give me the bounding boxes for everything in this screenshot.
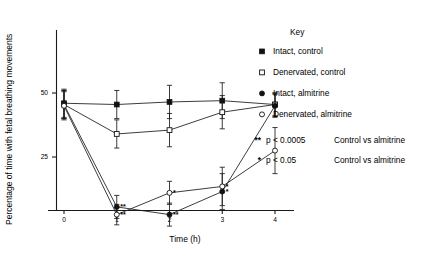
significance-marker: **: [173, 211, 179, 218]
marker-open-square: [260, 70, 265, 75]
x-tick-label: 4: [273, 216, 277, 223]
marker-filled-circle: [167, 212, 172, 217]
marker-open-circle: [220, 184, 225, 189]
legend-item[interactable]: Denervated, control: [260, 67, 346, 77]
y-axis-ticks: 2550: [41, 89, 57, 160]
marker-open-square: [167, 128, 172, 133]
legend-item-label: Denervated, almitrine: [273, 109, 352, 119]
legend-item[interactable]: Intact, control: [260, 46, 323, 56]
marker-open-circle: [260, 112, 265, 117]
y-tick-label: 25: [41, 153, 49, 160]
legend-item-label: Denervated, control: [273, 67, 346, 77]
significance-marker: *: [226, 183, 229, 190]
legend-item-label: Intact, control: [273, 46, 323, 56]
y-axis-title: Percentage of time with fetal breathing …: [4, 34, 14, 225]
y-tick-label: 50: [41, 89, 49, 96]
marker-open-circle: [167, 190, 172, 195]
marker-filled-square: [114, 102, 119, 107]
x-tick-label: 0: [62, 216, 66, 223]
marker-filled-circle: [260, 91, 265, 96]
marker-filled-circle: [273, 103, 278, 108]
note-p-value: p < 0.0005: [266, 135, 306, 145]
plot-area: *********: [61, 83, 277, 226]
line-chart: Percentage of time with fetal breathing …: [0, 0, 436, 253]
marker-open-square: [220, 110, 225, 115]
legend-item[interactable]: Intact, almitrine: [260, 88, 330, 98]
significance-marker: **: [120, 203, 126, 210]
x-tick-label: 3: [220, 216, 224, 223]
x-axis-title: Time (h): [169, 234, 200, 244]
note-comparison: Control vs almitrine: [334, 135, 405, 145]
legend: Intact, controlDenervated, controlIntact…: [260, 46, 353, 119]
legend-item-label: Intact, almitrine: [273, 88, 330, 98]
legend-item[interactable]: Denervated, almitrine: [260, 109, 353, 119]
significance-marker: **: [120, 211, 126, 218]
marker-filled-square: [167, 100, 172, 105]
marker-open-circle: [273, 148, 278, 153]
legend-title: Key: [290, 27, 305, 37]
figure-container: Percentage of time with fetal breathing …: [0, 0, 436, 253]
significance-note: **p < 0.0005Control vs almitrine: [255, 135, 406, 145]
note-p-value: p < 0.05: [266, 155, 297, 165]
note-comparison: Control vs almitrine: [334, 155, 405, 165]
marker-open-circle: [114, 212, 119, 217]
marker-open-circle: [62, 103, 67, 108]
note-mark: **: [255, 135, 262, 145]
marker-filled-square: [260, 49, 265, 54]
marker-open-square: [114, 132, 119, 137]
significance-note: *p < 0.05Control vs almitrine: [258, 155, 406, 165]
significance-marker: *: [173, 189, 176, 196]
